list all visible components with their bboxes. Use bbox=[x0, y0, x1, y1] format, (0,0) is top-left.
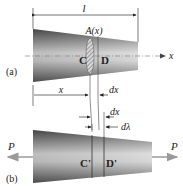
cross-section-area bbox=[86, 38, 94, 74]
area-label: A(x) bbox=[84, 25, 103, 37]
x-position-label: x bbox=[58, 84, 64, 95]
part-b-label: (b) bbox=[6, 173, 18, 185]
section-c-prime-label: C' bbox=[80, 157, 91, 169]
dx-label-b: dx bbox=[110, 106, 120, 117]
load-right-label: P bbox=[170, 140, 178, 152]
part-a-label: (a) bbox=[6, 66, 17, 78]
length-label: l bbox=[82, 2, 85, 14]
part-b: dx dλ C' D' P P (b) bbox=[6, 98, 178, 185]
part-a: l x A(x) C D (a) x dx bbox=[6, 2, 174, 106]
section-d-prime-label: D' bbox=[106, 157, 117, 169]
dx-label-a: dx bbox=[109, 84, 119, 95]
section-d-label: D bbox=[101, 54, 109, 66]
tapered-bar-diagram: l x A(x) C D (a) x dx dx bbox=[0, 0, 183, 192]
load-left-label: P bbox=[7, 140, 15, 152]
dlambda-label: dλ bbox=[121, 121, 131, 132]
axis-label: x bbox=[168, 50, 174, 61]
section-c-label: C bbox=[79, 54, 87, 66]
x-axis-arrow-icon bbox=[160, 54, 166, 59]
